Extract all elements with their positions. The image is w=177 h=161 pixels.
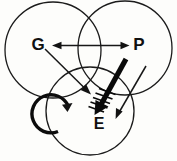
venn-arrow-diagram: G P E [0,0,177,161]
diagram-canvas: G P E [0,0,177,161]
label-p: P [133,35,144,54]
label-g: G [31,35,44,54]
label-e: E [94,115,105,132]
diagram-background [0,0,177,161]
